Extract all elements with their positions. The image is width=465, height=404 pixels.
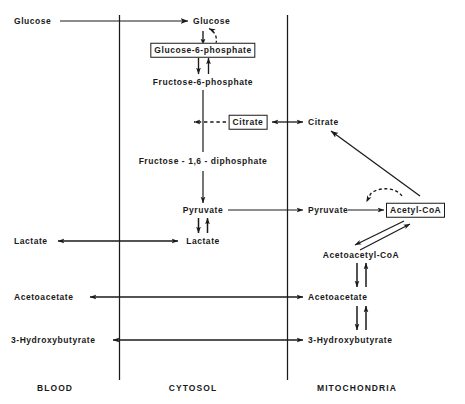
pathway-figure: Glucose Lactate Acetoacetate 3-Hydroxybu… [0, 0, 465, 404]
arrow-acetyl-coa-inhibits-pdh [367, 189, 403, 202]
arrow-acetyl-coa-to-acetoacetyl-coa [355, 221, 404, 245]
compartment-label-cytosol: CYTOSOL [169, 383, 218, 393]
node-glucose-6-phosphate: Glucose-6-phosphate [150, 43, 255, 58]
node-blood-lactate: Lactate [14, 236, 48, 246]
arrow-acetoacetyl-coa-to-acetyl-coa [360, 224, 410, 250]
node-cytosol-glucose: Glucose [193, 16, 230, 26]
node-blood-glucose: Glucose [14, 16, 51, 26]
node-mito-acetoacetate: Acetoacetate [308, 292, 368, 302]
node-cytosol-lactate: Lactate [186, 236, 220, 246]
node-mito-pyruvate: Pyruvate [308, 205, 348, 215]
arrow-g6p-to-cytosol-glucose-feedback [209, 29, 216, 45]
node-cytosol-citrate: Citrate [229, 115, 268, 130]
arrow-acetyl-coa-to-mito-citrate [331, 131, 420, 196]
node-fructose-1-6-diphosphate: Fructose - 1,6 - diphosphate [139, 156, 268, 166]
node-blood-3-hydroxybutyrate: 3-Hydroxybutyrate [11, 335, 95, 345]
cut-off-caption-sliver [0, 396, 465, 404]
node-acetoacetyl-coa: Acetoacetyl-CoA [323, 250, 399, 260]
node-mito-3-hydroxybutyrate: 3-Hydroxybutyrate [308, 335, 392, 345]
node-mito-citrate: Citrate [308, 117, 339, 127]
node-cytosol-pyruvate: Pyruvate [183, 205, 223, 215]
compartment-label-blood: BLOOD [37, 383, 73, 393]
node-blood-acetoacetate: Acetoacetate [14, 292, 74, 302]
node-fructose-6-phosphate: Fructose-6-phosphate [153, 77, 253, 87]
node-acetyl-coa: Acetyl-CoA [386, 203, 445, 218]
compartment-label-mitochondria: MITOCHONDRIA [317, 383, 397, 393]
